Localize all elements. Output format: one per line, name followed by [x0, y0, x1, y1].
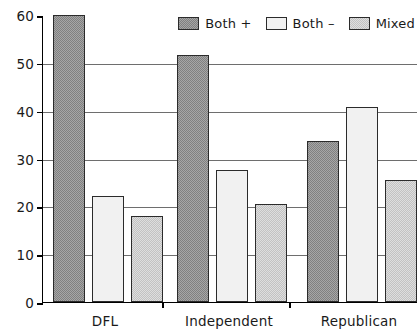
plot-area: 60 50 40 30 20 10 0 DFL	[42, 16, 417, 303]
ytick-0	[37, 303, 43, 305]
ytick-label-10: 10	[16, 247, 34, 263]
bar-dfl-both-minus[interactable]	[92, 196, 124, 302]
legend-label-both-plus: Both +	[205, 16, 251, 31]
ytick-label-0: 0	[25, 295, 34, 311]
legend-item-both-minus[interactable]: Both –	[266, 16, 335, 31]
bar-republican-mixed[interactable]	[385, 180, 417, 302]
xtick-label-dfl: DFL	[92, 313, 118, 329]
bar-chart: 60 50 40 30 20 10 0 DFL	[0, 0, 419, 334]
ytick-label-40: 40	[16, 104, 34, 120]
legend-label-both-minus: Both –	[293, 16, 335, 31]
bar-dfl-mixed[interactable]	[131, 216, 163, 302]
bar-independent-mixed[interactable]	[255, 204, 287, 303]
ytick-label-60: 60	[16, 8, 34, 24]
bar-group-independent: Independent	[162, 16, 289, 302]
xtick-label-independent: Independent	[185, 313, 273, 329]
bar-group-republican: Republican	[289, 16, 418, 302]
legend-swatch-both-minus-icon	[266, 17, 287, 30]
legend-item-mixed[interactable]: Mixed	[349, 16, 415, 31]
legend-item-both-plus[interactable]: Both +	[178, 16, 251, 31]
bar-independent-both-minus[interactable]	[216, 170, 248, 302]
bar-republican-both-plus[interactable]	[307, 141, 339, 302]
bar-republican-both-minus[interactable]	[346, 107, 378, 302]
bar-dfl-both-plus[interactable]	[53, 15, 85, 302]
xtick-label-republican: Republican	[321, 313, 398, 329]
bar-group-dfl: DFL	[43, 16, 162, 302]
bar-independent-both-plus[interactable]	[177, 55, 209, 302]
xtick-dfl	[162, 302, 164, 308]
legend: Both + Both – Mixed	[172, 14, 416, 33]
legend-swatch-both-plus-icon	[178, 17, 199, 30]
legend-label-mixed: Mixed	[376, 16, 415, 31]
ytick-label-50: 50	[16, 56, 34, 72]
ytick-label-30: 30	[16, 152, 34, 168]
ytick-label-20: 20	[16, 199, 34, 215]
xtick-independent	[289, 302, 291, 308]
legend-swatch-mixed-icon	[349, 17, 370, 30]
